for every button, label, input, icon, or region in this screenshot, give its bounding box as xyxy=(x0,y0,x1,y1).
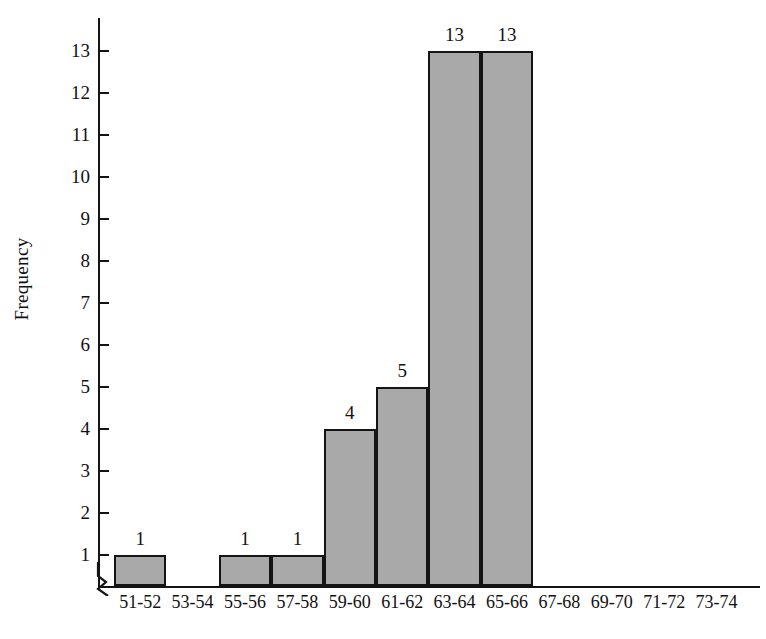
y-axis-tick-label: 6 xyxy=(56,335,90,354)
y-axis-tick xyxy=(98,50,109,52)
histogram-bar xyxy=(219,555,271,586)
y-axis-tick-label: 2 xyxy=(56,503,90,522)
y-axis-tick xyxy=(98,386,109,388)
y-axis-tick xyxy=(98,470,109,472)
y-axis-tick-label-wrap: 11 xyxy=(50,125,90,144)
bar-value-label: 13 xyxy=(428,25,480,44)
x-axis-tick-label: 73-74 xyxy=(684,592,748,612)
x-axis-line xyxy=(98,586,760,588)
bar-value-label: 1 xyxy=(271,529,323,548)
y-axis-tick-label-wrap: 7 xyxy=(50,293,90,312)
y-axis-tick-label: 1 xyxy=(56,545,90,564)
bar-value-label: 13 xyxy=(481,25,533,44)
histogram-bar xyxy=(376,387,428,586)
y-axis-tick-label: 9 xyxy=(56,209,90,228)
y-axis-tick-label: 11 xyxy=(56,125,90,144)
y-axis-tick-label-wrap: 4 xyxy=(50,419,90,438)
y-axis-tick xyxy=(98,512,109,514)
y-axis-tick xyxy=(98,134,109,136)
y-axis-tick-label: 3 xyxy=(56,461,90,480)
y-axis-tick-label-wrap: 8 xyxy=(50,251,90,270)
y-axis-tick-label-wrap: 6 xyxy=(50,335,90,354)
y-axis-tick-label-wrap: 3 xyxy=(50,461,90,480)
y-axis-tick xyxy=(98,260,109,262)
histogram-bar xyxy=(114,555,166,586)
histogram-chart: Frequency 12345678910111213 111451313 51… xyxy=(0,0,766,639)
bar-value-label: 5 xyxy=(376,361,428,380)
y-axis-tick-label: 5 xyxy=(56,377,90,396)
y-axis-tick-label-wrap: 5 xyxy=(50,377,90,396)
histogram-bar xyxy=(481,51,533,586)
y-axis-tick xyxy=(98,302,109,304)
bar-value-label: 1 xyxy=(219,529,271,548)
y-axis-tick-label: 10 xyxy=(56,167,90,186)
y-axis-tick xyxy=(98,92,109,94)
y-axis-tick xyxy=(98,428,109,430)
y-axis-tick-label: 12 xyxy=(56,83,90,102)
y-axis-tick xyxy=(98,218,109,220)
y-axis-tick-label: 7 xyxy=(56,293,90,312)
y-axis-tick-label-wrap: 13 xyxy=(50,41,90,60)
y-axis-tick xyxy=(98,344,109,346)
y-axis-title: Frequency xyxy=(11,219,33,339)
y-axis-tick xyxy=(98,554,109,556)
bar-value-label: 4 xyxy=(324,403,376,422)
y-axis-tick-label-wrap: 10 xyxy=(50,167,90,186)
y-axis-tick-label-wrap: 9 xyxy=(50,209,90,228)
y-axis-tick-label: 4 xyxy=(56,419,90,438)
y-axis-tick-label: 8 xyxy=(56,251,90,270)
y-axis-tick-label-wrap: 1 xyxy=(50,545,90,564)
y-axis-tick-label: 13 xyxy=(56,41,90,60)
y-axis-tick xyxy=(98,176,109,178)
histogram-bar xyxy=(428,51,480,586)
y-axis-tick-label-wrap: 2 xyxy=(50,503,90,522)
bar-value-label: 1 xyxy=(114,529,166,548)
histogram-bar xyxy=(324,429,376,586)
histogram-bar xyxy=(271,555,323,586)
y-axis-tick-label-wrap: 12 xyxy=(50,83,90,102)
